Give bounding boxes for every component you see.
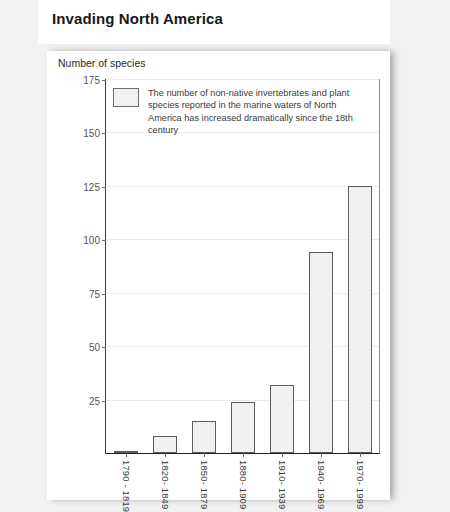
bar-slot: 1970- 1999 xyxy=(340,79,379,453)
bar-slot: 1940- 1969 xyxy=(301,79,340,453)
y-tick-label: 25 xyxy=(89,395,100,406)
chart-bar[interactable] xyxy=(192,421,216,453)
chart-bar[interactable] xyxy=(348,186,372,453)
bar-slot: 1850- 1879 xyxy=(184,79,223,453)
chart-bar[interactable] xyxy=(153,436,177,453)
x-tick-mark xyxy=(360,453,361,457)
x-tick-label: 1790 - 1819 xyxy=(120,460,131,512)
x-tick-mark xyxy=(204,453,205,457)
x-tick-label: 1910- 1939 xyxy=(276,460,287,509)
x-tick-mark xyxy=(321,453,322,457)
x-tick-label: 1880- 1909 xyxy=(237,460,248,509)
x-tick-mark xyxy=(243,453,244,457)
x-tick-mark xyxy=(165,453,166,457)
x-tick-mark xyxy=(282,453,283,457)
x-tick-label: 1820- 1849 xyxy=(159,460,170,509)
chart-bar[interactable] xyxy=(231,402,255,453)
chart-bar[interactable] xyxy=(270,385,294,453)
y-tick-label: 175 xyxy=(83,75,100,86)
plot-area: 255075100125150175 The number of non-nat… xyxy=(105,79,380,454)
y-axis-title: Number of species xyxy=(58,57,146,69)
bar-slot: 1820- 1849 xyxy=(145,79,184,453)
bar-slot: 1790 - 1819 xyxy=(106,79,145,453)
y-tick-label: 75 xyxy=(89,288,100,299)
x-tick-mark xyxy=(126,453,127,457)
y-tick-label: 150 xyxy=(83,128,100,139)
x-tick-label: 1850- 1879 xyxy=(198,460,209,509)
bar-slot: 1910- 1939 xyxy=(262,79,301,453)
figure-card: Number of species 255075100125150175 The… xyxy=(47,51,390,500)
bar-slot: 1880- 1909 xyxy=(223,79,262,453)
bar-group: 1790 - 18191820- 18491850- 18791880- 190… xyxy=(106,79,379,453)
page-title: Invading North America xyxy=(52,8,382,30)
y-tick-label: 50 xyxy=(89,342,100,353)
x-tick-label: 1970- 1999 xyxy=(354,460,365,509)
chart-bar[interactable] xyxy=(309,252,333,453)
x-tick-label: 1940- 1969 xyxy=(315,460,326,509)
y-tick-label: 100 xyxy=(83,235,100,246)
y-tick-label: 125 xyxy=(83,181,100,192)
